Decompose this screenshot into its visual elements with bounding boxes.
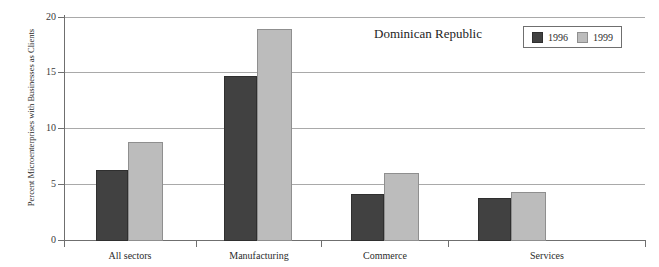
bar-all-sectors-1999 xyxy=(128,142,163,241)
x-tick-mark-4 xyxy=(645,240,646,247)
y-tick-label-15-wrap: 15 xyxy=(30,67,56,77)
y-tick-label-15: 15 xyxy=(34,67,56,77)
x-tick-label-commerce: Commerce xyxy=(323,250,447,261)
x-tick-mark-0 xyxy=(64,240,65,247)
y-tick-label-0: 0 xyxy=(34,235,56,245)
x-tick-label-all-sectors: All sectors xyxy=(70,250,190,261)
bar-services-1996 xyxy=(478,198,511,241)
bar-all-sectors-1996 xyxy=(96,170,128,241)
y-tick-label-10-wrap: 10 xyxy=(30,123,56,133)
bar-chart: Percent Microenterprises with Businesses… xyxy=(0,0,659,267)
gridline-20 xyxy=(64,17,645,18)
y-tick-label-0-wrap: 0 xyxy=(30,235,56,245)
gridline-10 xyxy=(64,128,645,129)
legend-label-1996: 1996 xyxy=(548,32,568,43)
bar-manufacturing-1999 xyxy=(257,29,292,241)
y-tick-label-20-wrap: 20 xyxy=(30,12,56,22)
y-tick-label-20: 20 xyxy=(34,12,56,22)
bar-commerce-1996 xyxy=(351,194,384,241)
chart-legend: 1996 1999 xyxy=(523,26,622,48)
legend-swatch-1999-icon xyxy=(577,32,588,43)
legend-swatch-1996-icon xyxy=(532,32,543,43)
x-tick-label-services: Services xyxy=(450,250,644,261)
chart-title: Dominican Republic xyxy=(374,26,482,42)
gridline-15 xyxy=(64,72,645,73)
x-tick-mark-1 xyxy=(196,240,197,247)
legend-item-1996: 1996 xyxy=(532,32,568,43)
legend-label-1999: 1999 xyxy=(593,32,613,43)
y-tick-label-10: 10 xyxy=(34,123,56,133)
y-tick-label-5-wrap: 5 xyxy=(30,179,56,189)
y-tick-label-5: 5 xyxy=(34,179,56,189)
x-tick-mark-3 xyxy=(448,240,449,247)
x-tick-mark-2 xyxy=(321,240,322,247)
bar-commerce-1999 xyxy=(384,173,419,241)
x-tick-label-manufacturing: Manufacturing xyxy=(198,250,320,261)
bar-manufacturing-1996 xyxy=(224,76,257,241)
legend-item-1999: 1999 xyxy=(577,32,613,43)
bar-services-1999 xyxy=(511,192,546,241)
y-axis-line xyxy=(64,15,65,242)
